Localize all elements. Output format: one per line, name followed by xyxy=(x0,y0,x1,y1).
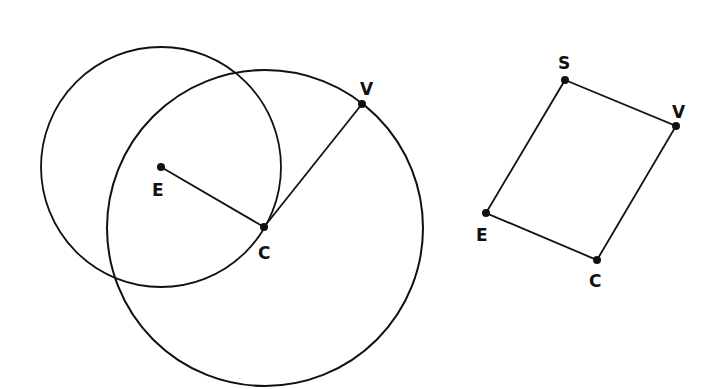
left-point-E xyxy=(157,163,165,171)
left-label-V: V xyxy=(360,79,374,99)
right-label-V: V xyxy=(672,102,686,122)
right-label-S: S xyxy=(558,53,570,73)
left-point-V xyxy=(358,100,366,108)
right-figure: SVCE xyxy=(476,53,686,291)
left-label-E: E xyxy=(152,180,164,200)
right-point-C xyxy=(593,256,601,264)
left-label-C: C xyxy=(258,243,270,263)
segment-C-V xyxy=(264,104,362,227)
diagram-canvas: ECV SVCE xyxy=(0,0,726,389)
left-figure: ECV xyxy=(41,47,423,386)
right-label-E: E xyxy=(476,225,488,245)
right-point-V xyxy=(672,122,680,130)
right-point-S xyxy=(561,76,569,84)
right-point-E xyxy=(482,209,490,217)
segment-E-C xyxy=(161,167,264,227)
parallelogram-SVCE xyxy=(486,80,676,260)
left-point-C xyxy=(260,223,268,231)
right-label-C: C xyxy=(589,271,601,291)
